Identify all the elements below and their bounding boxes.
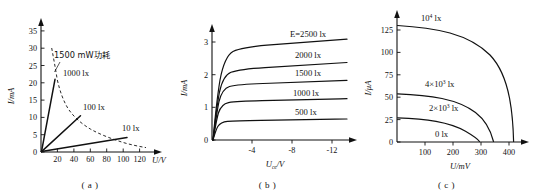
panel-b-ytick-0: 0 [204,136,208,145]
panel-c-curve-1e4lx [398,26,514,142]
panel-a-xtick-20: 20 [53,155,61,164]
panel-c-label-0lx: 0 lx [435,129,449,139]
panel-c-xtick-300: 300 [475,148,487,157]
panel-a-label-100lx: 100 lx [83,102,105,112]
panel-a-ytick-10: 10 [29,113,37,122]
panel-c-ytick-50: 50 [385,93,393,102]
panel-b-xaxis-unit: /V [276,159,286,169]
panel-a-xtick-80: 80 [103,155,111,164]
panel-c-ytick-0: 0 [389,138,393,147]
panel-b-ytick-1: 1 [204,103,208,112]
panel-b-xtick-minus4: -4 [249,146,256,155]
panel-c-xtick-400: 400 [503,148,515,157]
panel-c-xaxis-label: U/mV [450,161,472,171]
panel-c-yaxis-label: I/μA [363,80,373,97]
panel-a-leader [55,62,61,72]
panel-a-ytick-35: 35 [29,27,37,36]
panel-a-ytick-15: 15 [29,96,37,105]
panel-a-xtick-120: 120 [133,155,145,164]
panel-a-label-1000lx: 1000 lx [63,68,90,78]
panel-b-xtick-minus12: -12 [327,146,338,155]
panel-b: 0 1 2 3 -4 -8 -12 Uce/V I/mA E=2500 lx 2… [175,0,360,194]
panel-a-xtick-60: 60 [86,155,94,164]
panel-b-curve-1500lx [213,80,347,140]
panel-c-axes [394,10,529,145]
panel-c-ytick-100: 100 [381,48,393,57]
panel-c-label-2e3lx: 2×103 lx [429,103,459,113]
figure-container: 0 5 10 15 20 25 30 35 20 40 60 80 100 12… [0,0,538,194]
panel-b-axes [209,24,357,143]
panel-b-yaxis-label: I/mA [179,79,189,97]
panel-b-label-1500lx: 1500 lx [295,68,322,78]
panel-a-yaxis-label: I/mA [6,87,16,105]
panel-b-xaxis-label: Uce/V [266,159,286,170]
panel-c-label-4e3lx: 4×103 lx [425,79,455,89]
panel-c-ytick-125: 125 [381,26,393,35]
panel-b-curve-2500lx [213,39,347,140]
panel-c: 0 25 50 75 100 125 100 200 300 400 U/mV … [355,0,538,194]
panel-a-ytick-0: 0 [33,148,37,157]
panel-b-label-2000lx: 2000 lx [295,50,322,60]
panel-b-label-1000lx: 1000 lx [293,88,320,98]
panel-a: 0 5 10 15 20 25 30 35 20 40 60 80 100 12… [0,0,180,194]
panel-b-plot: 0 1 2 3 -4 -8 -12 Uce/V I/mA E=2500 lx 2… [175,0,360,194]
panel-a-ytick-25: 25 [29,62,37,71]
panel-c-ytick-25: 25 [385,116,393,125]
panel-c-xtick-200: 200 [447,148,459,157]
panel-c-ytick-75: 75 [385,71,393,80]
panel-b-xtick-minus8: -8 [289,146,296,155]
panel-b-label-2500lx: E=2500 lx [290,29,327,39]
panel-c-caption: ( c ) [355,180,538,190]
panel-a-xaxis-label: U/V [152,155,168,165]
panel-a-plot: 0 5 10 15 20 25 30 35 20 40 60 80 100 12… [0,0,180,194]
panel-a-caption: ( a ) [0,180,180,190]
panel-c-label-1e4lx: 104 lx [421,13,442,23]
panel-b-label-500lx: 500 lx [295,107,317,117]
panel-b-curve-500lx [213,119,347,140]
panel-a-label-power: 1500 mW功耗 [54,50,110,60]
panel-b-ytick-3: 3 [204,38,208,47]
panel-c-plot: 0 25 50 75 100 125 100 200 300 400 U/mV … [355,0,538,194]
panel-a-ytick-30: 30 [29,44,37,53]
panel-a-ytick-20: 20 [29,79,37,88]
panel-c-xtick-100: 100 [419,148,431,157]
panel-a-label-10lx: 10 lx [122,123,140,133]
panel-b-ytick-2: 2 [204,71,208,80]
panel-b-caption: ( b ) [175,180,360,190]
panel-a-xtick-40: 40 [70,155,78,164]
panel-b-curve-2000lx [213,63,347,141]
panel-a-xtick-100: 100 [117,155,129,164]
panel-a-ytick-5: 5 [33,131,37,140]
